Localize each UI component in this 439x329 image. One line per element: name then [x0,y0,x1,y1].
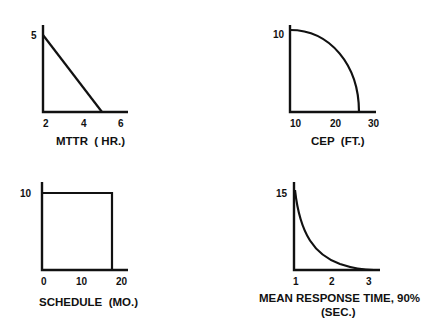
mttr-x-tick-4: 4 [81,118,87,129]
response-curve [295,190,374,270]
schedule-axis-title: SCHEDULE (MO.) [39,296,138,308]
response-x-tick-2: 2 [329,276,335,287]
chart-response-time: 15 1 2 3 MEAN RESPONSE TIME, 90% (SEC.) [259,182,420,318]
mttr-axis-title: MTTR ( HR.) [56,135,125,147]
mttr-y-tick: 5 [31,30,37,41]
mttr-x-tick-6: 6 [118,118,124,129]
schedule-x-tick-10: 10 [76,276,88,287]
chart-schedule: 10 0 10 20 SCHEDULE (MO.) [20,182,138,308]
utility-curves-figure: 5 2 4 6 MTTR ( HR.) 10 10 20 30 CEP (FT.… [0,0,439,329]
cep-y-tick: 10 [273,29,285,40]
cep-x-tick-20: 20 [330,118,342,129]
cep-curve [290,30,359,112]
schedule-x-tick-20: 20 [116,276,128,287]
chart-mttr: 5 2 4 6 MTTR ( HR.) [31,25,128,147]
cep-x-tick-10: 10 [290,118,302,129]
mttr-curve [43,35,102,112]
schedule-x-tick-0: 0 [41,276,47,287]
response-axis-title-line2: (SEC.) [321,306,356,318]
cep-x-tick-30: 30 [368,118,380,129]
response-axis-title-line1: MEAN RESPONSE TIME, 90% [259,292,420,304]
response-x-tick-3: 3 [366,276,372,287]
mttr-axes [43,25,128,112]
response-x-tick-1: 1 [293,276,299,287]
cep-axis-title: CEP (FT.) [311,135,365,147]
cep-axes [290,25,376,112]
chart-cep: 10 10 20 30 CEP (FT.) [273,25,380,147]
response-axes [294,182,380,270]
response-y-tick: 15 [276,188,288,199]
mttr-x-tick-2: 2 [43,118,49,129]
schedule-y-tick: 10 [20,188,32,199]
schedule-curve [42,193,112,270]
schedule-axes [42,182,128,270]
